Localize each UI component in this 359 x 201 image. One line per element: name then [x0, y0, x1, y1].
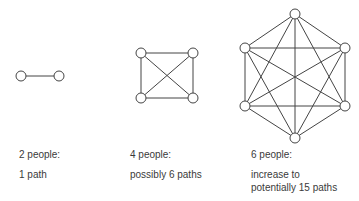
two-people-title: 2 people: — [19, 148, 60, 161]
person-node — [188, 48, 198, 58]
two-people-caption: 1 path — [19, 168, 47, 181]
person-node — [290, 9, 300, 19]
person-node — [240, 43, 250, 53]
person-node — [16, 71, 26, 81]
path-edge — [245, 106, 295, 138]
four-people-caption: possibly 6 paths — [130, 168, 202, 181]
four-people-title: 4 people: — [130, 148, 171, 161]
nodes — [16, 9, 350, 143]
path-edge — [295, 106, 345, 138]
six-people-title: 6 people: — [251, 148, 292, 161]
six-people-caption-line2: potentially 15 paths — [251, 181, 337, 194]
path-edge — [295, 14, 345, 48]
person-node — [340, 43, 350, 53]
person-node — [340, 101, 350, 111]
path-edge — [245, 14, 295, 48]
six-people-caption-line1: increase to — [251, 168, 300, 181]
edges — [21, 14, 345, 138]
person-node — [290, 133, 300, 143]
person-node — [136, 93, 146, 103]
person-node — [240, 101, 250, 111]
person-node — [136, 48, 146, 58]
person-node — [188, 93, 198, 103]
person-node — [54, 71, 64, 81]
